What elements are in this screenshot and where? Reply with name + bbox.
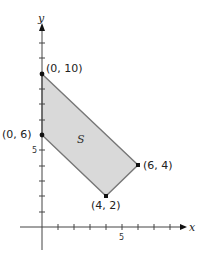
y-tick-label-5: 5 bbox=[32, 146, 37, 155]
region-label: S bbox=[77, 133, 85, 146]
vertex-label-0-6: (0, 6) bbox=[2, 128, 32, 141]
vertex-label-0-10: (0, 10) bbox=[46, 62, 83, 75]
x-tick-label-5: 5 bbox=[119, 233, 124, 242]
vertex-label-6-4: (6, 4) bbox=[143, 159, 173, 172]
coordinate-plane: y x (0, 10) (0, 6) (6, 4) (4, 2) S 5 5 bbox=[0, 0, 198, 258]
vertex-label-4-2: (4, 2) bbox=[91, 199, 121, 212]
y-axis-label: y bbox=[37, 12, 45, 25]
vertex-0-10 bbox=[40, 72, 45, 77]
vertex-6-4 bbox=[136, 163, 140, 167]
x-axis-label: x bbox=[189, 221, 196, 234]
region-s bbox=[42, 74, 138, 196]
x-axis bbox=[20, 224, 187, 230]
x-axis-arrow-icon bbox=[180, 224, 187, 230]
vertex-0-6 bbox=[40, 133, 45, 138]
vertex-4-2 bbox=[104, 194, 108, 198]
